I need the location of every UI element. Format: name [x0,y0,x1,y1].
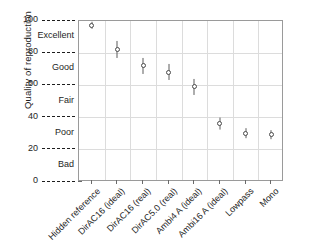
marker-circle-icon [243,131,248,136]
y-tick-dash [42,116,75,117]
y-tick-label-20: 20 [8,144,38,153]
y-category-label-excellent: Excellent [14,31,74,40]
y-category-label-good: Good [14,63,74,72]
y-category-label-bad: Bad [14,160,74,169]
x-tick-mark [270,180,271,184]
marker-circle-icon [166,70,171,75]
horizontal-gridline [79,149,282,150]
marker-circle-icon [115,47,120,52]
y-tick-dash [42,148,75,149]
marker-circle-icon [269,132,274,137]
y-tick-dash [42,181,75,182]
y-tick-label-100: 100 [8,15,38,24]
y-tick-dash [42,84,75,85]
x-tick-label-ambi16-a-ideal: Ambi16 A (ideal) [176,186,229,239]
x-tick-mark [168,180,169,184]
x-tick-mark [116,180,117,184]
x-tick-label-mono: Mono [258,186,281,209]
vertical-gridline [130,21,131,180]
x-tick-mark [142,180,143,184]
y-tick-label-80: 80 [8,47,38,56]
horizontal-gridline [79,53,282,54]
y-category-label-fair: Fair [14,96,74,105]
y-tick-label-40: 40 [8,112,38,121]
marker-circle-icon [217,121,222,126]
horizontal-gridline [79,85,282,86]
x-tick-mark [91,180,92,184]
marker-circle-icon [141,63,146,68]
chart-figure: Quality of reproduction 020406080100 Bad… [0,0,309,250]
vertical-gridline [258,21,259,180]
vertical-gridline [207,21,208,180]
y-tick-dash [42,20,75,21]
vertical-gridline [105,21,106,180]
x-tick-mark [245,180,246,184]
vertical-gridline [156,21,157,180]
x-tick-mark [219,180,220,184]
horizontal-gridline [79,117,282,118]
vertical-gridline [182,21,183,180]
x-tick-mark [193,180,194,184]
y-tick-label-0: 0 [8,176,38,185]
y-tick-label-60: 60 [8,79,38,88]
plot-area [78,20,283,181]
vertical-gridline [233,21,234,180]
marker-circle-icon [192,84,197,89]
y-tick-dash [42,52,75,53]
y-tick-mark [78,181,82,182]
marker-circle-icon [89,23,94,28]
y-category-label-poor: Poor [14,128,74,137]
